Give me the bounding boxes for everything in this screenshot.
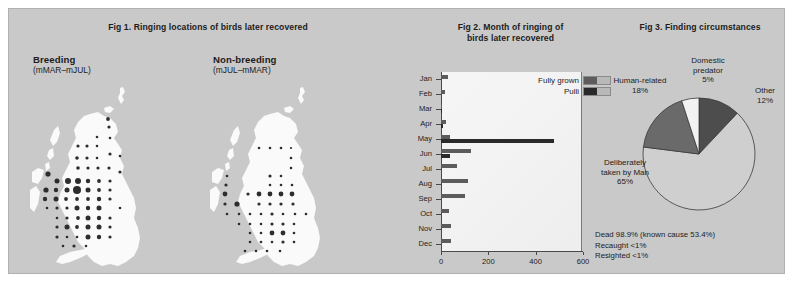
footnote-line-resighted: Resighted <1% xyxy=(595,251,715,262)
fig2-month-label-jul: Jul xyxy=(406,165,432,173)
pie-label-human-related-l1: Human-related xyxy=(614,76,667,85)
fig2-x-label-600: 600 xyxy=(568,257,598,266)
fig2-month-label-oct: Oct xyxy=(406,210,432,218)
fig2-title-line1: Fig 2. Month of ringing of xyxy=(458,22,564,32)
fig2-y-tick xyxy=(436,169,441,170)
pie-label-domestic-predator-l1: Domestic xyxy=(691,56,724,65)
fig2-bar-fully-grown-mar xyxy=(441,105,442,109)
fig2-month-label-sep: Sep xyxy=(406,195,432,203)
uk-map-breeding-svg xyxy=(30,86,200,271)
pie-label-other: Other 12% xyxy=(745,86,785,105)
fig2-bar-pulli-may xyxy=(441,139,554,143)
fig2-x-axis xyxy=(441,251,583,252)
footnote-line-recaught: Recaught <1% xyxy=(595,241,715,252)
fig2-panel: Fig 2. Month of ringing of birds later r… xyxy=(403,8,615,274)
fig2-bar-fully-grown-apr xyxy=(441,120,446,124)
fig2-y-tick xyxy=(436,199,441,200)
pie-label-deliberately-taken-l1: Deliberately xyxy=(604,158,646,167)
fig2-x-tick xyxy=(488,252,489,255)
fig2-month-label-mar: Mar xyxy=(406,105,432,113)
fig1-map2-heading: Non-breeding xyxy=(213,54,277,65)
fig2-bar-fully-grown-sep xyxy=(441,194,465,198)
figure-root: Fig 1. Ringing locations of birds later … xyxy=(0,0,793,282)
fig2-bar-pulli-apr xyxy=(441,124,443,128)
fig2-x-tick xyxy=(583,252,584,255)
fig2-month-label-nov: Nov xyxy=(406,225,432,233)
uk-map-nonbreeding-svg xyxy=(210,86,380,271)
legend-label-pulli: Pulli xyxy=(564,87,579,96)
fig2-y-tick xyxy=(436,124,441,125)
fig1-panel: Fig 1. Ringing locations of birds later … xyxy=(8,8,403,274)
pie-label-deliberately-taken-pct: 65% xyxy=(617,177,633,186)
fig3-title: Fig 3. Finding circumstances xyxy=(617,22,783,33)
pie-label-other-l1: Other xyxy=(755,86,775,95)
fig1-map2-heading-block: Non-breeding (mJUL–mMAR) xyxy=(213,54,277,76)
fig2-bar-fully-grown-aug xyxy=(441,179,468,183)
pie-label-domestic-predator-pct: 5% xyxy=(702,75,714,84)
fig2-y-tick xyxy=(436,94,441,95)
fig2-x-label-0: 0 xyxy=(426,257,456,266)
fig2-y-tick xyxy=(436,229,441,230)
fig2-month-label-jun: Jun xyxy=(406,150,432,158)
fig1-map-breeding xyxy=(30,86,200,266)
fig1-title: Fig 1. Ringing locations of birds later … xyxy=(23,22,393,33)
footnote-line-dead: Dead 98.9% (known cause 53.4%) xyxy=(595,230,715,241)
fig2-legend: Fully grown Pulli xyxy=(538,76,611,98)
fig2-x-tick xyxy=(441,252,442,255)
pie-label-deliberately-taken-l2: taken by Man xyxy=(601,168,649,177)
fig2-month-label-apr: Apr xyxy=(406,120,432,128)
fig3-panel: Fig 3. Finding circumstances Domestic pr… xyxy=(615,8,785,274)
fig2-bar-pulli-mar xyxy=(441,109,442,113)
uk-landmass xyxy=(30,87,140,266)
fig2-y-tick xyxy=(436,139,441,140)
pie-label-human-related: Human-related 18% xyxy=(603,76,677,95)
fig2-y-tick xyxy=(436,154,441,155)
fig2-y-tick xyxy=(436,244,441,245)
fig2-y-tick xyxy=(436,214,441,215)
fig2-x-label-400: 400 xyxy=(521,257,551,266)
fig2-bar-fully-grown-nov xyxy=(441,224,451,228)
fig2-month-label-feb: Feb xyxy=(406,90,432,98)
pie-label-human-related-pct: 18% xyxy=(632,86,648,95)
fig2-bar-fully-grown-jul xyxy=(441,164,457,168)
fig2-bar-fully-grown-jun xyxy=(441,149,471,153)
fig2-bar-fully-grown-oct xyxy=(441,209,449,213)
fig2-x-tick xyxy=(536,252,537,255)
fig1-map-nonbreeding xyxy=(210,86,380,266)
pie-label-deliberately-taken: Deliberately taken by Man 65% xyxy=(585,158,665,187)
fig3-footnote: Dead 98.9% (known cause 53.4%) Recaught … xyxy=(595,230,715,262)
pie-label-domestic-predator: Domestic predator 5% xyxy=(673,56,743,85)
fig1-map1-heading: Breeding xyxy=(33,54,91,65)
legend-label-fully-grown: Fully grown xyxy=(538,76,579,85)
fig1-map1-heading-block: Breeding (mMAR–mJUL) xyxy=(33,54,91,76)
pie-slices xyxy=(643,98,755,210)
fig2-month-label-aug: Aug xyxy=(406,180,432,188)
fig1-map1-subheading: (mMAR–mJUL) xyxy=(33,65,91,75)
pie-label-domestic-predator-l2: predator xyxy=(693,66,723,75)
fig2-y-tick xyxy=(436,184,441,185)
fig2-bar-pulli-jun xyxy=(441,154,450,158)
fig2-bar-fully-grown-jan xyxy=(441,75,448,79)
fig2-y-tick xyxy=(436,109,441,110)
fig3-pie-chart xyxy=(641,96,757,212)
fig2-month-label-jan: Jan xyxy=(406,75,432,83)
pie-label-other-pct: 12% xyxy=(757,96,773,105)
fig2-x-label-200: 200 xyxy=(473,257,503,266)
fig2-bar-fully-grown-feb xyxy=(441,90,445,94)
legend-item-fully-grown: Fully grown xyxy=(538,76,611,85)
fig2-month-label-dec: Dec xyxy=(406,240,432,248)
legend-item-pulli: Pulli xyxy=(538,87,611,96)
fig2-y-tick xyxy=(436,79,441,80)
fig2-bar-fully-grown-dec xyxy=(441,239,451,243)
fig2-title-line2: birds later recovered xyxy=(467,33,554,43)
fig2-plot-bg xyxy=(441,72,581,251)
fig2-title: Fig 2. Month of ringing of birds later r… xyxy=(413,22,608,43)
fig1-map2-subheading: (mJUL–mMAR) xyxy=(213,65,271,75)
fig2-plot-area xyxy=(441,72,582,251)
fig2-bar-fully-grown-may xyxy=(441,135,450,139)
fig2-month-label-may: May xyxy=(406,135,432,143)
